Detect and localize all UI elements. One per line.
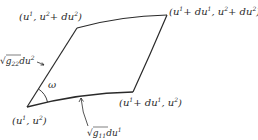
edge-label-left: √g22du2 bbox=[0, 54, 35, 67]
g11-arrow bbox=[81, 98, 88, 126]
vertex-label-bottom-left: (u1, u2) bbox=[12, 114, 47, 126]
angle-label-omega: ω bbox=[48, 79, 56, 90]
edge-label-bottom: √g11du1 bbox=[87, 126, 122, 139]
vertex-label-top-left: (u1, u2+ du2) bbox=[19, 10, 82, 22]
edge-left bbox=[27, 28, 77, 107]
edge-top bbox=[77, 15, 167, 28]
edge-right bbox=[133, 15, 167, 92]
vertex-label-bottom-right: (u1+ du1, u2) bbox=[119, 96, 182, 108]
diagram-svg: (u1, u2+ du2) (u1+ du1, u2+ du2) √g22du2… bbox=[0, 0, 258, 140]
diagram-canvas: (u1, u2+ du2) (u1+ du1, u2+ du2) √g22du2… bbox=[0, 0, 258, 140]
angle-arc bbox=[39, 89, 48, 102]
vertex-label-top-right: (u1+ du1, u2+ du2) bbox=[169, 5, 258, 17]
